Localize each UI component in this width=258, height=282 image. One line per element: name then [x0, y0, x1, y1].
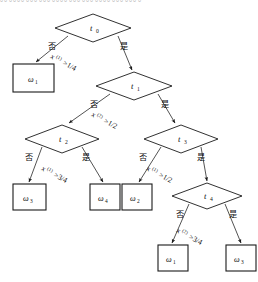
branch-label-t0-no: 否: [48, 41, 56, 51]
branch-label-t3-no: 否: [139, 152, 147, 162]
branch-label-t0-yes: 是: [120, 41, 128, 51]
leaf-omega3-bottom[interactable]: ω 3: [226, 245, 256, 271]
node-t0-diamond: [55, 14, 131, 42]
leaf-omega2-subscript: 2: [137, 198, 140, 204]
node-t2[interactable]: t 2: [25, 125, 99, 153]
leaf-omega4-box: [90, 184, 120, 210]
leaf-omega1-top-subscript: 1: [35, 79, 38, 85]
decision-tree-diagram: t 0 t 1 t 2 t 3 t 4 ω: [0, 0, 258, 282]
split-t4-superscript: (2): [181, 228, 189, 235]
split-condition-t2: x (1) >3/4: [39, 163, 69, 185]
node-t0-subscript: 0: [96, 28, 99, 34]
split-t4-rest: >3/4: [187, 232, 204, 247]
leaf-omega3-bottom-box: [226, 245, 256, 271]
leaf-omega4[interactable]: ω 4: [90, 184, 120, 210]
leaf-omega2-box: [122, 184, 152, 210]
leaf-omega3-left-label: ω: [23, 194, 29, 203]
node-t4-subscript: 4: [210, 196, 213, 202]
node-t0[interactable]: t 0: [55, 14, 131, 42]
leaf-omega4-subscript: 4: [105, 198, 108, 204]
branch-label-t2-yes: 是: [82, 152, 90, 162]
node-t3[interactable]: t 3: [144, 125, 218, 153]
split-t2-rest: >3/4: [52, 170, 69, 185]
split-condition-t4: x (2) >3/4: [174, 225, 204, 247]
split-t1-superscript: (2): [96, 112, 104, 119]
node-t3-subscript: 3: [184, 139, 187, 145]
leaf-omega3-left[interactable]: ω 3: [13, 184, 46, 210]
node-t4-diamond: [172, 183, 242, 209]
branch-label-t3-yes: 是: [197, 152, 205, 162]
node-t2-diamond: [25, 125, 99, 153]
leaf-omega1-bottom-subscript: 1: [173, 259, 176, 265]
leaf-omega4-label: ω: [98, 194, 104, 203]
split-t1-rest: >1/2: [102, 116, 119, 131]
branch-label-t4-yes: 是: [229, 209, 237, 219]
branch-label-t1-yes: 是: [161, 99, 169, 109]
figure-canvas: 。。。。。。。。。。。。。。。。。。。。。。。。。。。。。。。。。: [0, 0, 258, 282]
node-t4[interactable]: t 4: [172, 183, 242, 209]
branch-label-t1-no: 否: [90, 99, 98, 109]
split-t0-rest: >1/4: [61, 58, 78, 73]
branch-label-t4-no: 否: [176, 209, 184, 219]
leaf-omega3-left-subscript: 3: [30, 198, 33, 204]
split-t3-superscript: (1): [151, 166, 159, 173]
node-t1-subscript: 1: [137, 86, 140, 92]
leaf-omega1-bottom-label: ω: [166, 255, 172, 264]
leaf-omega1-top[interactable]: ω 1: [13, 64, 54, 92]
split-condition-t1: x (2) >1/2: [89, 109, 119, 131]
split-t0-superscript: (1): [55, 54, 63, 61]
leaf-omega1-bottom[interactable]: ω 1: [158, 245, 188, 271]
leaf-omega3-left-box: [13, 184, 46, 210]
node-t2-subscript: 2: [65, 139, 68, 145]
split-t3-rest: >1/2: [157, 170, 174, 185]
leaf-omega3-bottom-label: ω: [234, 255, 240, 264]
node-t3-diamond: [144, 125, 218, 153]
branch-label-t2-no: 否: [25, 152, 33, 162]
leaf-omega1-bottom-box: [158, 245, 188, 271]
leaf-omega1-top-label: ω: [28, 75, 34, 84]
split-t2-superscript: (1): [46, 166, 54, 173]
split-condition-t3: x (1) >1/2: [144, 163, 174, 185]
leaf-omega2[interactable]: ω 2: [122, 184, 152, 210]
leaf-omega3-bottom-subscript: 3: [241, 259, 244, 265]
leaf-omega2-label: ω: [130, 194, 136, 203]
